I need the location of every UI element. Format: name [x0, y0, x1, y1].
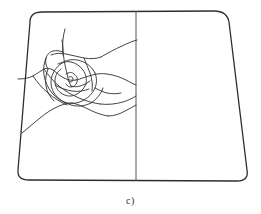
figure-container: c): [0, 0, 261, 214]
figure-background: [0, 0, 261, 214]
figure-drawing-canvas: [0, 0, 261, 214]
